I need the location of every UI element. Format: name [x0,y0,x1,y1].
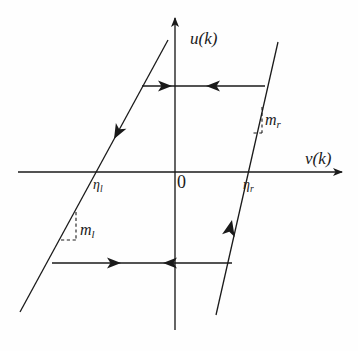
v-axis-label: v(k) [305,150,331,167]
v-axis-label-text: v(k) [305,149,331,168]
slope-marker-left [61,212,76,240]
eta-r-label: ηr [243,178,254,194]
m-r-subscript: r [277,118,281,130]
eta-r-subscript: r [250,184,254,194]
origin-label-text: 0 [177,172,186,192]
eta-r-base: η [243,177,250,192]
m-l-subscript: l [92,228,95,240]
u-axis-label: u(k) [190,30,217,47]
m-r-label: mr [265,112,281,130]
u-axis-label-text: u(k) [190,29,217,48]
left-boundary-line [20,40,168,312]
m-r-base: m [265,111,277,128]
left-line-arrow-icon [109,123,127,142]
eta-l-base: η [93,177,100,192]
m-l-label: ml [80,222,95,240]
origin-label: 0 [177,173,186,191]
eta-l-subscript: l [100,184,103,194]
m-l-base: m [80,221,92,238]
figure-container: u(k) v(k) 0 ηl ηr mr ml [0,0,358,351]
eta-l-label: ηl [93,178,103,194]
